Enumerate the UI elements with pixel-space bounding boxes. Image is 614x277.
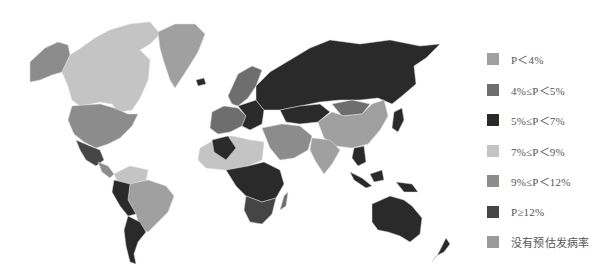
region-southeast-asia bbox=[352, 146, 366, 166]
legend-swatch bbox=[487, 175, 499, 187]
region-new-zealand bbox=[432, 238, 450, 262]
region-canada bbox=[62, 22, 160, 112]
region-japan bbox=[392, 108, 404, 132]
legend-label: 5%≤P＜7% bbox=[511, 112, 565, 128]
region-middle-east bbox=[262, 124, 312, 160]
legend-item-no-estimate: 没有预估发病率 bbox=[487, 227, 614, 258]
map-legend: P＜4% 4%≤P＜5% 5%≤P＜7% 7%≤P＜9% 9%≤P＜12% P≥… bbox=[487, 44, 614, 258]
legend-item-5-to-7: 5%≤P＜7% bbox=[487, 105, 614, 136]
legend-item-9-to-12: 9%≤P＜12% bbox=[487, 166, 614, 197]
legend-swatch bbox=[487, 53, 499, 65]
world-map bbox=[0, 0, 480, 277]
legend-swatch bbox=[487, 236, 499, 248]
legend-swatch bbox=[487, 145, 499, 157]
region-australia bbox=[372, 196, 422, 242]
legend-item-gte-12: P≥12% bbox=[487, 197, 614, 228]
legend-item-7-to-9: 7%≤P＜9% bbox=[487, 136, 614, 167]
legend-label: 9%≤P＜12% bbox=[511, 173, 571, 189]
legend-label: 4%≤P＜5% bbox=[511, 82, 565, 98]
world-map-svg bbox=[0, 0, 480, 277]
legend-label: P＜4% bbox=[511, 51, 544, 67]
region-russia bbox=[256, 40, 440, 110]
region-greenland bbox=[158, 24, 205, 88]
legend-label: 7%≤P＜9% bbox=[511, 143, 565, 159]
region-central-america bbox=[98, 162, 114, 178]
region-madagascar bbox=[280, 192, 288, 210]
legend-label: P≥12% bbox=[511, 206, 544, 218]
legend-item-4-to-5: 4%≤P＜5% bbox=[487, 75, 614, 106]
legend-swatch bbox=[487, 114, 499, 126]
region-iceland bbox=[196, 78, 206, 86]
legend-label: 没有预估发病率 bbox=[511, 234, 589, 250]
region-indonesia bbox=[350, 170, 418, 192]
region-western-europe bbox=[210, 106, 246, 134]
legend-item-p-lt-4: P＜4% bbox=[487, 44, 614, 75]
legend-swatch bbox=[487, 84, 499, 96]
legend-swatch bbox=[487, 206, 499, 218]
